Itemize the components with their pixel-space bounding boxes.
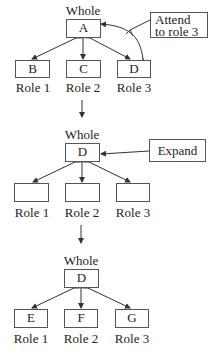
stage2-role-1: Role 1 — [7, 206, 57, 220]
stage1-note-attend: Attend to role 3 — [150, 12, 208, 38]
stage3-child-3: G — [115, 309, 149, 328]
stage3-role-3: Role 3 — [107, 332, 157, 346]
stage2-child-1 — [14, 183, 49, 202]
stage2-parent-caption: Whole — [62, 128, 102, 142]
stage1-role-1: Role 1 — [8, 81, 58, 95]
stage2-note-expand: Expand — [149, 139, 206, 162]
note-line2: to role 3 — [155, 26, 203, 38]
stage1-parent-box: A — [66, 19, 101, 38]
connector-arrows — [0, 0, 219, 353]
stage2-child-3 — [116, 183, 150, 202]
stage1-child-3: D — [117, 60, 151, 78]
stage1-role-3: Role 3 — [109, 81, 159, 95]
stage3-parent-box: D — [64, 269, 99, 288]
stage2-parent-box: D — [65, 143, 100, 162]
stage3-child-2: F — [64, 309, 98, 328]
stage3-role-2: Role 2 — [56, 332, 106, 346]
stage1-child-1: B — [15, 60, 50, 78]
stage1-role-2: Role 2 — [58, 81, 108, 95]
stage2-child-2 — [65, 183, 100, 202]
stage1-child-2: C — [66, 60, 101, 78]
stage3-child-1: E — [14, 309, 48, 328]
stage2-role-3: Role 3 — [108, 206, 158, 220]
stage2-role-2: Role 2 — [57, 206, 107, 220]
stage3-parent-caption: Whole — [61, 254, 101, 268]
stage1-parent-caption: Whole — [63, 4, 103, 18]
stage3-role-1: Role 1 — [6, 332, 56, 346]
